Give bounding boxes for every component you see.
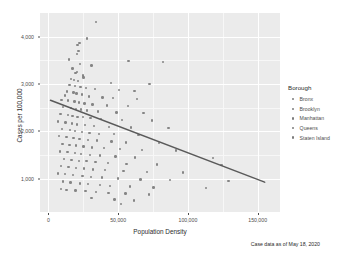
gridline-minor-horizontal (40, 60, 280, 61)
data-point (175, 149, 177, 151)
data-point (87, 183, 89, 185)
data-point (79, 86, 81, 88)
legend-dot-icon (292, 108, 294, 110)
data-point (76, 116, 78, 118)
data-point (78, 42, 80, 44)
gridline-minor-horizontal (40, 155, 280, 156)
data-point (88, 95, 90, 97)
data-point (98, 133, 100, 135)
data-point (72, 137, 74, 139)
legend-key-swatch (288, 104, 298, 114)
data-point (109, 185, 111, 187)
data-point (142, 112, 144, 114)
x-tick-label: 0 (47, 217, 50, 223)
data-point (129, 185, 131, 187)
legend-item-staten-island[interactable]: Staten Island (288, 133, 346, 143)
data-point (205, 187, 207, 189)
data-point (91, 146, 93, 148)
data-point (77, 80, 79, 82)
data-point (99, 184, 101, 186)
data-point (57, 120, 59, 122)
data-point (62, 180, 64, 182)
data-point (89, 117, 91, 119)
data-point (95, 191, 97, 193)
data-point (72, 174, 74, 176)
data-point (83, 102, 85, 104)
data-point (76, 123, 78, 125)
gridline-major-vertical (188, 13, 189, 212)
data-point (90, 176, 92, 178)
legend-dot-icon (292, 98, 294, 100)
legend-items: BronxBrooklynManhattanQueensStaten Islan… (288, 95, 346, 143)
y-tick-label: 4,000 (0, 34, 34, 40)
data-point (134, 156, 136, 158)
legend-item-bronx[interactable]: Bronx (288, 95, 346, 105)
data-point (83, 167, 85, 169)
gridline-major-vertical (48, 13, 49, 212)
data-point (137, 134, 139, 136)
legend-item-manhattan[interactable]: Manhattan (288, 114, 346, 124)
data-point (82, 76, 84, 78)
data-point (74, 72, 76, 74)
legend-item-brooklyn[interactable]: Brooklyn (288, 104, 346, 114)
data-point (76, 53, 78, 55)
data-point (78, 160, 80, 162)
data-point (70, 107, 72, 109)
data-point (115, 111, 117, 113)
data-point (106, 104, 108, 106)
data-point (220, 164, 222, 166)
data-point (94, 161, 96, 163)
data-point (61, 128, 63, 130)
gridline-major-horizontal (40, 37, 280, 38)
legend-item-label: Queens (300, 125, 318, 131)
data-point (162, 61, 164, 63)
data-point (101, 96, 103, 98)
plot-panel (40, 13, 280, 212)
data-point (117, 177, 119, 179)
data-point (94, 88, 96, 90)
data-point (152, 186, 154, 188)
data-point (75, 92, 77, 94)
data-point (67, 166, 69, 168)
data-point (112, 97, 114, 99)
data-point (227, 180, 229, 182)
chart-figure: 1,0002,0003,0004,000 050,000100,000150,0… (0, 0, 348, 255)
data-point (95, 21, 97, 23)
data-point (85, 160, 87, 162)
data-point (65, 136, 67, 138)
data-point (119, 148, 121, 150)
legend-dot-icon (292, 136, 294, 138)
data-point (71, 122, 73, 124)
data-point (167, 127, 169, 129)
data-point (90, 64, 92, 66)
data-point (125, 141, 127, 143)
data-point (92, 168, 94, 170)
data-point (127, 60, 129, 62)
data-point (114, 155, 116, 157)
data-point (99, 154, 101, 156)
y-tick-mark (38, 84, 40, 85)
data-point (80, 108, 82, 110)
data-point (101, 176, 103, 178)
data-point (158, 142, 160, 144)
x-tick-mark (258, 213, 259, 215)
legend-item-queens[interactable]: Queens (288, 123, 346, 133)
data-point (81, 131, 83, 133)
y-axis-title: Cases per 100,000 (16, 56, 23, 176)
data-point (107, 192, 109, 194)
data-point (139, 178, 141, 180)
data-point (100, 118, 102, 120)
data-point (212, 157, 214, 159)
data-point (124, 192, 126, 194)
data-point (148, 83, 150, 85)
gridline-minor-vertical (83, 13, 84, 212)
data-point (146, 171, 148, 173)
gridline-minor-vertical (153, 13, 154, 212)
data-point (66, 90, 68, 92)
data-point (66, 151, 68, 153)
data-point (81, 175, 83, 177)
data-point (88, 132, 90, 134)
data-point (58, 135, 60, 137)
data-point (118, 89, 120, 91)
x-tick-mark (48, 213, 49, 215)
